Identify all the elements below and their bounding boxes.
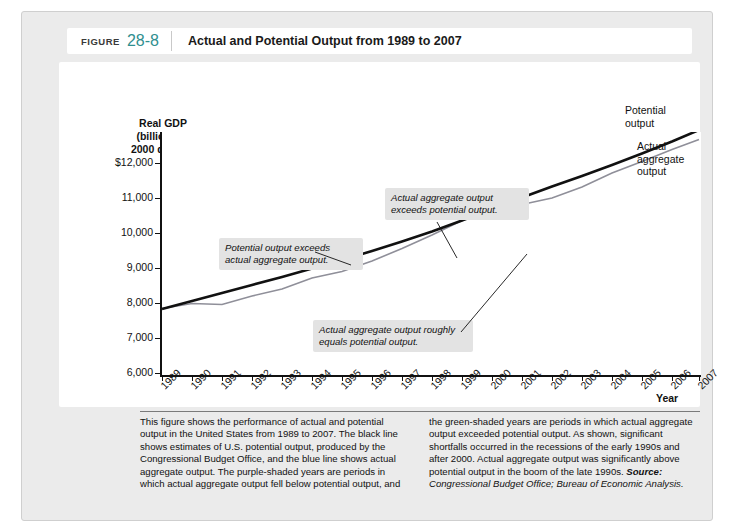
caption-source-prefix: Source: [626, 466, 662, 477]
potential-output-line [162, 132, 699, 309]
label-actual-line-1: Actual [637, 140, 684, 153]
label-potential-output-line-2: output [625, 117, 666, 130]
y-tick-label: 7,000 [95, 331, 153, 343]
figure-number: 28-8 [127, 32, 159, 50]
actual-output-line [162, 140, 699, 309]
label-actual-line-2: aggregate [637, 153, 684, 166]
x-axis-title: Year [656, 392, 678, 404]
y-tick-label: 11,000 [95, 191, 153, 203]
label-potential-output: Potential output [625, 104, 666, 129]
y-tick-label: $12,000 [95, 156, 153, 168]
y-tick-label: 8,000 [95, 296, 153, 308]
callout-roughly-equals: Actual aggregate output roughly equals p… [313, 320, 473, 352]
figure-page: FIGURE 28-8 Actual and Potential Output … [0, 0, 729, 530]
label-potential-output-line-1: Potential [625, 104, 666, 117]
y-tickmark [155, 233, 160, 234]
y-tick-label: 9,000 [95, 261, 153, 273]
y-tickmark [155, 163, 160, 164]
plot-card: Real GDP (billions of 2000 dollars) [59, 62, 700, 407]
figure-label: FIGURE [81, 36, 120, 47]
caption-source-text: Congressional Budget Office; Bureau of E… [429, 478, 684, 489]
y-tickmark [155, 303, 160, 304]
header-divider [171, 31, 172, 51]
figure-title: Actual and Potential Output from 1989 to… [188, 34, 462, 48]
y-tick-label: 10,000 [95, 226, 153, 238]
figure-caption: This figure shows the performance of act… [140, 416, 700, 516]
caption-divider [140, 411, 700, 412]
y-tickmark [155, 373, 160, 374]
y-tick-label: 6,000 [95, 366, 153, 378]
y-tickmark [155, 338, 160, 339]
figure-header: FIGURE 28-8 Actual and Potential Output … [67, 28, 692, 54]
y-axis-title-line-1: Real GDP [103, 117, 223, 130]
y-tickmark [155, 268, 160, 269]
label-actual-line-3: output [637, 165, 684, 178]
y-axis-line [160, 132, 162, 377]
callout-actual-exceeds: Actual aggregate output exceeds potentia… [385, 188, 529, 220]
label-actual-aggregate-output: Actual aggregate output [637, 140, 684, 178]
callout-potential-exceeds: Potential output exceeds actual aggregat… [219, 238, 363, 270]
y-tickmark [155, 198, 160, 199]
figure-card: FIGURE 28-8 Actual and Potential Output … [21, 11, 713, 521]
